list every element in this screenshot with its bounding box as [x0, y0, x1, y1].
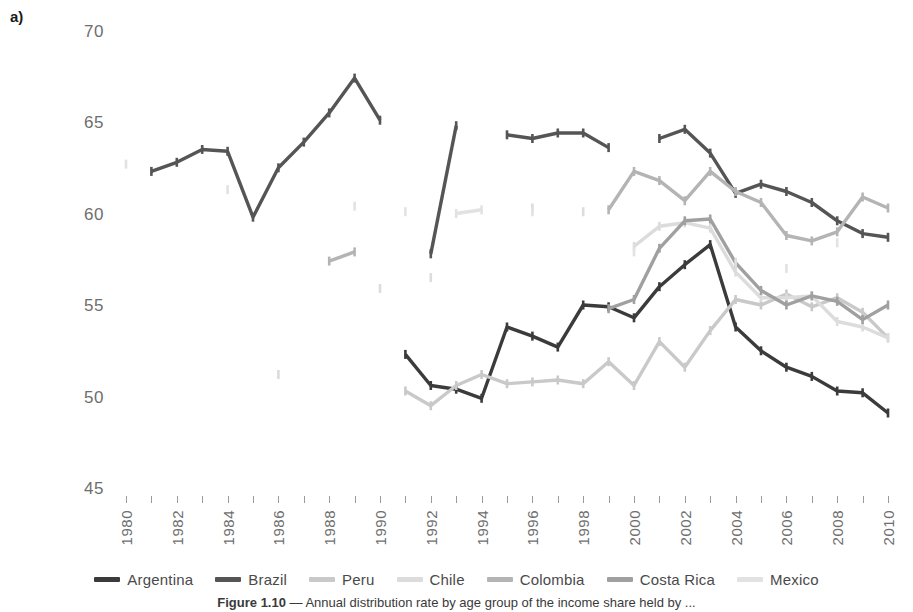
- x-tick-mark: [126, 496, 127, 503]
- chart-legend: ArgentinaBrazilPeruChileColombiaCosta Ri…: [0, 566, 913, 592]
- series-costa-rica: [609, 215, 888, 325]
- figure-caption: Figure 1.10 — Annual distribution rate b…: [0, 595, 913, 610]
- y-axis-ticks: 706560555045: [62, 24, 104, 494]
- legend-label: Chile: [430, 571, 465, 588]
- figure-panel: a) 706560555045 198019821984198619881990…: [0, 0, 913, 612]
- x-tick-mark: [431, 496, 432, 503]
- x-tick-mark: [583, 496, 584, 503]
- series-argentina: [405, 240, 888, 417]
- x-tick-label: 1998: [575, 510, 592, 545]
- x-tick-mark: [202, 496, 203, 503]
- x-tick-mark: [786, 496, 787, 503]
- x-tick-label: 2004: [728, 510, 745, 545]
- series-line: [405, 294, 888, 406]
- x-tick-mark: [863, 496, 864, 503]
- x-tick-mark: [685, 496, 686, 503]
- legend-swatch-icon: [215, 577, 241, 582]
- legend-swatch-icon: [397, 577, 423, 582]
- x-tick-mark: [532, 496, 533, 503]
- x-tick-label: 1990: [372, 510, 389, 545]
- x-tick-label: 1992: [423, 510, 440, 545]
- x-tick-label: 1982: [169, 510, 186, 545]
- series-line: [456, 210, 481, 214]
- x-tick-label: 2008: [829, 510, 846, 545]
- x-tick-label: 2000: [626, 510, 643, 545]
- x-tick-mark: [355, 496, 356, 503]
- y-tick-label: 45: [64, 480, 104, 497]
- series-line: [329, 252, 354, 261]
- x-tick-label: 1986: [270, 510, 287, 545]
- legend-item-costa-rica[interactable]: Costa Rica: [607, 571, 715, 588]
- series-line: [431, 126, 456, 254]
- legend-item-brazil[interactable]: Brazil: [215, 571, 287, 588]
- panel-label: a): [10, 8, 23, 25]
- y-tick-label: 50: [64, 388, 104, 405]
- plot-area: [112, 24, 902, 494]
- x-tick-mark: [837, 496, 838, 503]
- y-tick-label: 55: [64, 297, 104, 314]
- y-tick-label: 70: [64, 22, 104, 39]
- legend-label: Mexico: [770, 571, 819, 588]
- x-tick-mark: [177, 496, 178, 503]
- chart-svg: [112, 24, 902, 494]
- x-tick-label: 1994: [474, 510, 491, 545]
- x-tick-mark: [405, 496, 406, 503]
- x-tick-mark: [888, 496, 889, 503]
- x-tick-mark: [736, 496, 737, 503]
- legend-item-colombia[interactable]: Colombia: [487, 571, 585, 588]
- x-tick-mark: [151, 496, 152, 503]
- y-tick-label: 60: [64, 205, 104, 222]
- legend-swatch-icon: [607, 577, 633, 582]
- x-axis-ticks: 1980198219841986198819901992199419961998…: [112, 496, 902, 564]
- caption-text: — Annual distribution rate by age group …: [286, 595, 696, 610]
- legend-item-argentina[interactable]: Argentina: [94, 571, 193, 588]
- series-chile: [278, 204, 888, 380]
- x-tick-mark: [659, 496, 660, 503]
- x-tick-mark: [558, 496, 559, 503]
- legend-label: Costa Rica: [640, 571, 715, 588]
- y-tick-label: 65: [64, 114, 104, 131]
- x-tick-label: 1980: [118, 510, 135, 545]
- x-tick-mark: [710, 496, 711, 503]
- x-tick-mark: [507, 496, 508, 503]
- x-tick-mark: [812, 496, 813, 503]
- x-tick-mark: [609, 496, 610, 503]
- legend-swatch-icon: [487, 577, 513, 582]
- legend-label: Colombia: [520, 571, 585, 588]
- x-tick-label: 2010: [880, 510, 897, 545]
- series-brazil: [151, 74, 888, 259]
- x-tick-mark: [380, 496, 381, 503]
- x-tick-label: 2006: [778, 510, 795, 545]
- x-tick-mark: [304, 496, 305, 503]
- x-tick-mark: [761, 496, 762, 503]
- series-colombia: [329, 167, 888, 266]
- caption-prefix: Figure 1.10: [217, 595, 286, 610]
- series-line: [405, 245, 888, 413]
- legend-item-mexico[interactable]: Mexico: [737, 571, 819, 588]
- x-tick-mark: [482, 496, 483, 503]
- legend-label: Argentina: [127, 571, 193, 588]
- x-tick-mark: [329, 496, 330, 503]
- x-tick-label: 1996: [524, 510, 541, 545]
- x-tick-label: 1988: [321, 510, 338, 545]
- legend-label: Peru: [342, 571, 375, 588]
- x-tick-mark: [278, 496, 279, 503]
- series-peru: [405, 290, 888, 411]
- legend-swatch-icon: [94, 577, 120, 582]
- legend-item-chile[interactable]: Chile: [397, 571, 465, 588]
- x-tick-mark: [634, 496, 635, 503]
- series-line: [609, 171, 888, 241]
- legend-swatch-icon: [309, 577, 335, 582]
- x-tick-mark: [228, 496, 229, 503]
- x-tick-mark: [253, 496, 254, 503]
- legend-swatch-icon: [737, 577, 763, 582]
- legend-label: Brazil: [248, 571, 287, 588]
- series-line: [634, 223, 888, 338]
- x-tick-label: 2002: [677, 510, 694, 545]
- x-tick-mark: [456, 496, 457, 503]
- x-tick-label: 1984: [220, 510, 237, 545]
- legend-item-peru[interactable]: Peru: [309, 571, 375, 588]
- series-line: [151, 78, 380, 217]
